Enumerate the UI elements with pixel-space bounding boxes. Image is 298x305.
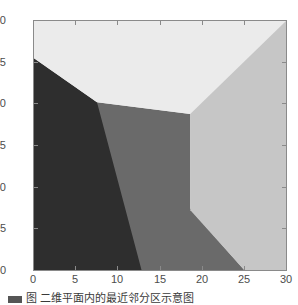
figure-caption: 图 二维平面内的最近邻分区示意图	[8, 292, 290, 305]
y-tick-label-0: 0	[0, 265, 6, 276]
x-tick-label-5: 25	[238, 274, 250, 285]
x-tick-top-3	[160, 21, 161, 25]
y-tick-left-0	[34, 270, 38, 271]
x-tick-label-6: 30	[280, 274, 292, 285]
y-tick-right-2	[282, 187, 286, 188]
x-tick-top-1	[75, 21, 76, 25]
y-tick-label-4: 20	[0, 98, 6, 109]
y-tick-right-6	[282, 20, 286, 21]
x-tick-label-1: 5	[72, 274, 78, 285]
x-tick-label-4: 20	[196, 274, 208, 285]
x-tick-label-3: 15	[154, 274, 166, 285]
regions-svg	[34, 21, 286, 270]
y-tick-right-4	[282, 103, 286, 104]
x-tick-top-0	[33, 21, 34, 25]
x-tick-bottom-3	[160, 266, 161, 270]
x-tick-label-2: 10	[111, 274, 123, 285]
x-tick-bottom-6	[286, 266, 287, 270]
x-tick-top-5	[244, 21, 245, 25]
x-tick-bottom-1	[75, 266, 76, 270]
y-tick-right-3	[282, 145, 286, 146]
plot-area	[33, 20, 287, 271]
y-tick-left-6	[34, 20, 38, 21]
y-tick-left-1	[34, 228, 38, 229]
caption-text: 图 二维平面内的最近邻分区示意图	[26, 292, 194, 304]
y-tick-label-2: 10	[0, 182, 6, 193]
y-tick-left-2	[34, 187, 38, 188]
x-tick-bottom-5	[244, 266, 245, 270]
y-tick-label-3: 15	[0, 140, 6, 151]
caption-marker	[8, 296, 22, 303]
y-tick-label-6: 30	[0, 15, 6, 26]
y-tick-right-1	[282, 228, 286, 229]
x-tick-top-4	[202, 21, 203, 25]
y-tick-left-3	[34, 145, 38, 146]
x-tick-label-0: 0	[30, 274, 36, 285]
y-tick-right-5	[282, 62, 286, 63]
y-tick-left-5	[34, 62, 38, 63]
region-layer	[34, 21, 286, 270]
x-tick-top-6	[286, 21, 287, 25]
y-tick-label-1: 5	[0, 223, 6, 234]
y-tick-left-4	[34, 103, 38, 104]
y-tick-right-0	[282, 270, 286, 271]
x-tick-top-2	[117, 21, 118, 25]
x-tick-bottom-4	[202, 266, 203, 270]
y-tick-label-5: 25	[0, 57, 6, 68]
x-tick-bottom-2	[117, 266, 118, 270]
